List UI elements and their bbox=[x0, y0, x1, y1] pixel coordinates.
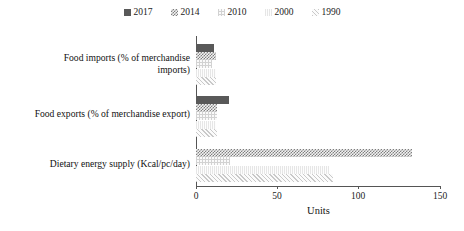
x-tick-label-0: 0 bbox=[194, 191, 199, 201]
bar-2000-cat2 bbox=[196, 166, 329, 174]
chart-legend: 2017 2014 2010 2000 1990 bbox=[0, 8, 464, 18]
x-tick-100 bbox=[358, 186, 359, 189]
x-tick-label-150: 150 bbox=[433, 191, 447, 201]
category-label-dietary-energy: Dietary energy supply (Kcal/pc/day) bbox=[14, 158, 190, 170]
category-label-food-exports: Food exports (% of merchandise export) bbox=[14, 108, 190, 120]
bar-2014-cat2 bbox=[196, 149, 412, 157]
bar-2010-cat2 bbox=[196, 157, 230, 165]
bar-chart: 2017 2014 2010 2000 1990 Food imports (%… bbox=[0, 0, 464, 231]
x-tick-50 bbox=[277, 186, 278, 189]
category-label-food-imports: Food imports (% of merchandise imports) bbox=[30, 52, 190, 75]
bar-2014-cat1 bbox=[196, 104, 217, 112]
bar-2017-cat0 bbox=[196, 44, 214, 52]
legend-label-2000: 2000 bbox=[275, 8, 294, 18]
legend-swatch-1990-icon bbox=[312, 9, 319, 16]
bar-2000-cat1 bbox=[196, 121, 216, 129]
legend-item-1990[interactable]: 1990 bbox=[312, 8, 341, 18]
x-tick-label-100: 100 bbox=[351, 191, 365, 201]
x-axis-line bbox=[196, 186, 441, 187]
legend-item-2014[interactable]: 2014 bbox=[171, 8, 200, 18]
legend-item-2010[interactable]: 2010 bbox=[218, 8, 247, 18]
legend-swatch-2010-icon bbox=[218, 9, 225, 16]
legend-item-2017[interactable]: 2017 bbox=[124, 8, 153, 18]
legend-item-2000[interactable]: 2000 bbox=[265, 8, 294, 18]
legend-label-1990: 1990 bbox=[322, 8, 341, 18]
x-tick-150 bbox=[440, 186, 441, 189]
bar-2010-cat1 bbox=[196, 112, 217, 120]
bar-1990-cat2 bbox=[196, 174, 333, 182]
x-tick-label-50: 50 bbox=[272, 191, 282, 201]
legend-swatch-2014-icon bbox=[171, 9, 178, 16]
legend-swatch-2017-icon bbox=[124, 9, 131, 16]
legend-swatch-2000-icon bbox=[265, 9, 272, 16]
bar-1990-cat1 bbox=[196, 129, 217, 137]
bar-2010-cat0 bbox=[196, 60, 212, 68]
bar-2014-cat0 bbox=[196, 52, 216, 60]
legend-label-2014: 2014 bbox=[181, 8, 200, 18]
legend-label-2017: 2017 bbox=[134, 8, 153, 18]
legend-label-2010: 2010 bbox=[228, 8, 247, 18]
bar-2017-cat1 bbox=[196, 96, 229, 104]
bar-2000-cat0 bbox=[196, 69, 216, 77]
bar-1990-cat0 bbox=[196, 77, 216, 85]
x-tick-0 bbox=[196, 186, 197, 189]
x-axis-title: Units bbox=[196, 205, 441, 216]
